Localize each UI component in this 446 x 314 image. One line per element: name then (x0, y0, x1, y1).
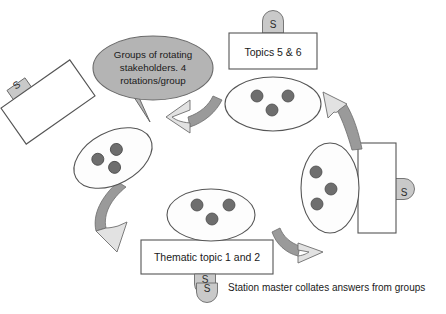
group-member-dot (311, 198, 323, 210)
group-top[interactable] (225, 77, 321, 131)
group-member-dot (191, 199, 203, 211)
arrow-left-to-bottom (95, 182, 127, 252)
station-top[interactable]: S Topics 5 & 6 (229, 11, 317, 70)
station-top-label: Topics 5 & 6 (244, 46, 301, 58)
arrow-right-to-top (323, 92, 362, 150)
group-bottom[interactable] (167, 189, 255, 241)
station-top-badge: S (263, 11, 284, 34)
group-member-dot (223, 199, 235, 211)
station-left-box[interactable] (1, 60, 95, 144)
station-right-box[interactable] (358, 143, 396, 233)
station-left[interactable]: S (0, 47, 95, 144)
speech-bubble-line-3: rotations/group (120, 75, 186, 86)
legend-badge-letter: S (204, 283, 211, 294)
station-bottom-label: Thematic topic 1 and 2 (154, 251, 260, 263)
arrow-bottom-to-right (272, 228, 323, 263)
diagram-canvas: S S Topics 5 & 6 S Thematic t (0, 0, 446, 314)
station-right-badge-letter: S (401, 187, 408, 198)
station-top-badge-letter: S (270, 19, 277, 30)
group-member-dot (310, 166, 322, 178)
group-member-dot (206, 213, 218, 225)
speech-bubble-line-2: stakeholders. 4 (120, 62, 187, 73)
group-right[interactable] (301, 143, 359, 233)
process-cycle-diagram: S S Topics 5 & 6 S Thematic t (0, 0, 446, 314)
legend-label: Station master collates answers from gro… (228, 282, 425, 293)
legend-badge: S (197, 283, 218, 303)
group-member-dot (251, 90, 263, 102)
group-member-dot (325, 183, 337, 195)
group-member-dot (266, 104, 278, 116)
legend: S Station master collates answers from g… (197, 282, 426, 303)
speech-bubble[interactable]: Groups of rotating stakeholders. 4 rotat… (93, 36, 213, 122)
station-right[interactable]: S (358, 143, 415, 233)
arrow-top-to-left (166, 96, 222, 133)
group-member-dot (282, 90, 294, 102)
speech-bubble-line-1: Groups of rotating (114, 49, 192, 60)
